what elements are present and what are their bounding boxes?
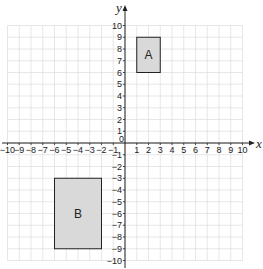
x-tick-label: 2	[146, 145, 151, 155]
x-tick-label: −4	[73, 145, 83, 155]
y-tick-label: −8	[112, 232, 122, 242]
x-tick-label: 9	[228, 145, 233, 155]
x-tick-label: −3	[85, 145, 95, 155]
y-tick-label: 2	[117, 115, 122, 125]
x-tick-label: 1	[134, 145, 139, 155]
y-axis-label: y	[114, 0, 122, 15]
y-tick-label: −1	[112, 150, 122, 160]
y-tick-label: 10	[112, 21, 122, 31]
x-tick-label: 6	[193, 145, 198, 155]
coordinate-grid: ABxy−10−9−8−7−6−5−4−3−2−1123456789101098…	[0, 0, 263, 269]
y-axis-arrow-icon	[123, 5, 128, 11]
shape-label-a: A	[144, 48, 152, 62]
y-tick-label: 3	[117, 103, 122, 113]
x-axis-arrow-icon	[249, 141, 255, 146]
x-tick-label: 3	[158, 145, 163, 155]
x-tick-label: 5	[181, 145, 186, 155]
y-tick-label: −5	[112, 197, 122, 207]
x-axis-label: x	[255, 136, 262, 151]
x-tick-label: −7	[38, 145, 48, 155]
x-tick-label: −6	[49, 145, 59, 155]
origin-label: 0	[119, 134, 124, 144]
x-tick-label: −10	[0, 145, 15, 155]
y-tick-label: 4	[117, 91, 122, 101]
y-tick-label: 8	[117, 44, 122, 54]
x-tick-label: 10	[237, 145, 247, 155]
x-tick-label: 4	[169, 145, 174, 155]
y-tick-label: −2	[112, 162, 122, 172]
y-tick-label: −9	[112, 244, 122, 254]
y-tick-label: −3	[112, 173, 122, 183]
x-tick-label: −2	[96, 145, 106, 155]
x-tick-label: −5	[61, 145, 71, 155]
y-tick-label: 6	[117, 68, 122, 78]
y-tick-label: −7	[112, 220, 122, 230]
y-tick-label: −10	[107, 256, 122, 266]
x-tick-label: −9	[14, 145, 24, 155]
y-tick-label: 9	[117, 32, 122, 42]
y-tick-label: 5	[117, 79, 122, 89]
y-tick-label: −6	[112, 209, 122, 219]
shape-label-b: B	[74, 207, 82, 221]
y-tick-label: 7	[117, 56, 122, 66]
y-tick-label: −4	[112, 185, 122, 195]
x-tick-label: −8	[26, 145, 36, 155]
x-tick-label: 7	[205, 145, 210, 155]
x-tick-label: 8	[216, 145, 221, 155]
